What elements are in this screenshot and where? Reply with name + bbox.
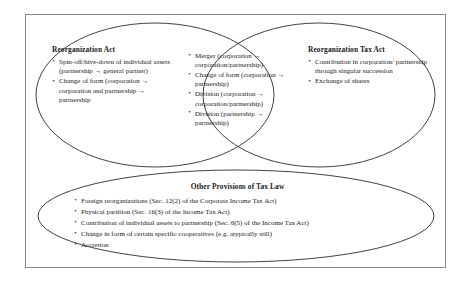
list-item: Division (corporation → corporation/part… [188,90,292,109]
set-bottom-heading: Other Provisions of Tax Law [60,183,415,191]
set-right-reorganization-tax-act: Reorganization Tax Act Contribution in c… [308,46,430,87]
set-bottom-other-provisions: Other Provisions of Tax Law Foreign reor… [60,183,415,251]
set-right-heading: Reorganization Tax Act [308,46,430,54]
list-item: Division (partnership → partnership) [188,110,292,129]
list-item: Exchange of shares [308,77,430,87]
set-left-heading: Reorganization Act [52,46,177,54]
list-item: Change of form (corporation → partnershi… [188,71,292,90]
set-left-list: Spin-off/hive-down of individual assets … [52,58,177,106]
list-item: Spin-off/hive-down of individual assets … [52,58,177,77]
list-item: Foreign reorganizations (Sec. 12(2) of t… [74,196,415,207]
list-item: Contribution in corporation/ partnership… [308,58,430,77]
set-intersection-list: Merger (corporation → corporation/partne… [188,52,292,128]
list-item: Merger (corporation → corporation/partne… [188,52,292,71]
list-item: Accretion [74,240,415,251]
set-bottom-list: Foreign reorganizations (Sec. 12(2) of t… [60,196,415,251]
list-item: Physical partition (Sec. 16(3) of the In… [74,207,415,218]
set-right-list: Contribution in corporation/ partnership… [308,58,430,87]
list-item: Change in form of certain specific coope… [74,229,415,240]
diagram-canvas: Reorganization Act Spin-off/hive-down of… [0,0,470,283]
list-item: Contribution of individual assets to par… [74,218,415,229]
list-item: Change of form (corporation → corporatio… [52,77,177,106]
set-left-reorganization-act: Reorganization Act Spin-off/hive-down of… [52,46,177,106]
set-intersection: Merger (corporation → corporation/partne… [188,52,292,129]
